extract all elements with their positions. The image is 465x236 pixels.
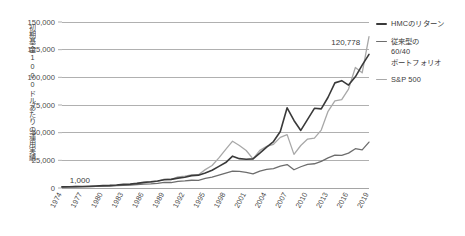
legend-label: 従来型の60/40ポートフォリオ bbox=[391, 37, 441, 69]
x-tick-label: 1974 bbox=[48, 191, 64, 210]
y-tick-label: 75,000 bbox=[32, 101, 55, 110]
legend-label: HMCのリターン bbox=[391, 19, 444, 30]
x-tick-label: 2010 bbox=[294, 191, 310, 210]
legend-entry[interactable]: S&P 500 bbox=[376, 75, 465, 86]
y-tick-label: 150,000 bbox=[28, 18, 55, 27]
x-tick-label: 2001 bbox=[232, 191, 248, 210]
x-tick-label: 2007 bbox=[273, 191, 289, 210]
start-value-label: 1,000 bbox=[70, 176, 91, 185]
y-tick-label: 50,000 bbox=[32, 128, 55, 137]
x-tick-labels: 1974197719801983198619891992199519982001… bbox=[48, 191, 371, 210]
x-tick-label: 1998 bbox=[212, 191, 228, 210]
x-tick-label: 1980 bbox=[89, 191, 105, 210]
chart-legend: HMCのリターン従来型の60/40ポートフォリオS&P 500 bbox=[376, 19, 465, 93]
x-tick-label: 1983 bbox=[109, 191, 125, 210]
series-line bbox=[62, 37, 369, 187]
x-tick-label: 2019 bbox=[355, 191, 371, 210]
legend-color-swatch bbox=[376, 23, 387, 25]
chart-figure: 初期基金1000ドルあたりの運用実績 025,00050,00075,00010… bbox=[0, 0, 465, 236]
x-tick-label: 1989 bbox=[150, 191, 166, 210]
series-line bbox=[62, 142, 369, 187]
x-tick-label: 1995 bbox=[191, 191, 207, 210]
x-tick-label: 1986 bbox=[130, 191, 146, 210]
end-value-label: 120,778 bbox=[331, 38, 360, 47]
y-tick-label: 125,000 bbox=[28, 45, 55, 54]
legend-color-swatch bbox=[376, 79, 387, 80]
legend-entry[interactable]: 従来型の60/40ポートフォリオ bbox=[376, 37, 465, 69]
series-line bbox=[62, 54, 369, 187]
legend-color-swatch bbox=[376, 41, 387, 42]
x-tick-label: 1992 bbox=[171, 191, 187, 210]
legend-label: S&P 500 bbox=[391, 75, 421, 86]
y-tick-labels: 025,00050,00075,000100,000125,000150,000 bbox=[28, 18, 55, 193]
x-tick-label: 2004 bbox=[253, 191, 269, 210]
x-tick-label: 2013 bbox=[314, 191, 330, 210]
x-tick-label: 1977 bbox=[69, 191, 85, 210]
x-tick-label: 2016 bbox=[335, 191, 351, 210]
data-series bbox=[62, 37, 369, 187]
y-tick-label: 25,000 bbox=[32, 156, 55, 165]
y-tick-label: 100,000 bbox=[28, 73, 55, 82]
legend-entry[interactable]: HMCのリターン bbox=[376, 19, 465, 30]
